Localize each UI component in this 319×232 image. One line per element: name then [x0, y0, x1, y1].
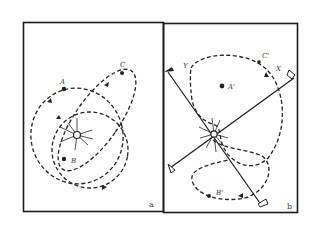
- point-a-prime: [220, 84, 225, 89]
- arrow-icon: [238, 193, 243, 198]
- label-a: A: [59, 78, 65, 86]
- sun-icon: [60, 118, 93, 150]
- label-y-axis: Y: [183, 62, 189, 70]
- point-b-prime: [207, 194, 211, 198]
- orbit-upper: [190, 55, 282, 165]
- point-c: [120, 71, 124, 75]
- point-a: [62, 87, 67, 92]
- arrow-icon: [264, 72, 269, 77]
- label-b: B: [70, 157, 76, 165]
- orbit-diagram: A C B a: [0, 0, 319, 232]
- y-axis-arrow-icon: [164, 67, 174, 72]
- panel-a: A C B a: [20, 58, 154, 209]
- label-b-prime: B': [215, 189, 223, 197]
- panel-b: A' C' B' Y X b: [164, 52, 295, 211]
- label-x-axis: X: [275, 65, 282, 73]
- panel-b-label: b: [287, 202, 292, 211]
- label-c-prime: C': [262, 52, 269, 60]
- y-axis: [168, 72, 262, 206]
- y-axis-arrow-icon: [258, 199, 268, 207]
- label-c: C: [120, 61, 126, 69]
- arrow-icon: [104, 82, 109, 87]
- panel-b-frame: [164, 24, 298, 213]
- panel-a-frame: [24, 23, 164, 212]
- arrow-icon: [56, 115, 61, 119]
- orbit-c: [45, 58, 150, 182]
- arrow-icon: [102, 185, 107, 190]
- point-c-prime: [257, 60, 261, 64]
- label-a-prime: A': [227, 83, 235, 91]
- panel-a-label: a: [149, 200, 154, 209]
- x-axis: [170, 78, 294, 168]
- point-b: [62, 157, 66, 161]
- x-axis-arrow-icon: [287, 70, 295, 79]
- orbit-lower: [192, 140, 269, 199]
